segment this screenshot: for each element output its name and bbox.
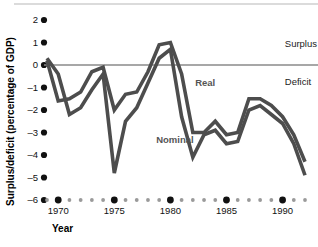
- x-major-tick-dot: [167, 197, 174, 204]
- x-minor-tick-dot: [45, 198, 49, 202]
- x-major-tick-dot: [223, 197, 230, 204]
- y-tick-label: –3: [27, 127, 38, 138]
- x-minor-tick-dot: [124, 198, 128, 202]
- x-minor-tick-dot: [135, 198, 139, 202]
- annotation-real: Real: [195, 77, 215, 88]
- x-minor-tick-dot: [236, 198, 240, 202]
- x-tick-label: 1985: [216, 205, 237, 216]
- x-minor-tick-dot: [146, 198, 150, 202]
- y-tick-dot: [41, 39, 47, 45]
- y-tick-dot: [41, 107, 47, 113]
- y-tick-label: –2: [27, 104, 38, 115]
- y-tick-dot: [41, 84, 47, 90]
- x-major-tick-dot: [111, 197, 118, 204]
- x-minor-tick-dot: [180, 198, 184, 202]
- x-axis-title: Year: [52, 223, 73, 234]
- y-tick-label: –4: [27, 149, 38, 160]
- x-minor-tick-dot: [202, 198, 206, 202]
- annotation-deficit: Deficit: [285, 76, 312, 87]
- y-axis-title: Surplus/deficit (percentage of GDP): [5, 37, 16, 206]
- x-tick-label: 1990: [272, 205, 293, 216]
- x-minor-tick-dot: [101, 198, 105, 202]
- x-tick-label: 1975: [104, 205, 125, 216]
- x-minor-tick-dot: [269, 198, 273, 202]
- y-tick-dot: [41, 17, 47, 23]
- annotation-nominal: Nominal: [156, 134, 193, 145]
- y-tick-dot: [41, 174, 47, 180]
- x-minor-tick-dot: [213, 198, 217, 202]
- x-minor-tick-dot: [79, 198, 83, 202]
- y-tick-label: 1: [33, 37, 38, 48]
- x-minor-tick-dot: [303, 198, 307, 202]
- x-minor-tick-dot: [292, 198, 296, 202]
- y-tick-label: 2: [33, 14, 38, 25]
- x-tick-label: 1980: [160, 205, 181, 216]
- x-tick-label: 1970: [48, 205, 69, 216]
- x-minor-tick-dot: [191, 198, 195, 202]
- y-tick-label: –6: [27, 194, 38, 205]
- annotation-surplus: Surplus: [285, 38, 317, 49]
- x-minor-tick-dot: [258, 198, 262, 202]
- y-tick-label: –1: [27, 82, 38, 93]
- x-minor-tick-dot: [247, 198, 251, 202]
- x-major-tick-dot: [55, 197, 62, 204]
- x-major-tick-dot: [279, 197, 286, 204]
- x-minor-tick-dot: [157, 198, 161, 202]
- y-tick-label: 0: [33, 59, 38, 70]
- chart-figure: Surplus/deficit (percentage of GDP) 210–…: [0, 0, 318, 247]
- y-tick-label: –5: [27, 172, 38, 183]
- x-minor-tick-dot: [90, 198, 94, 202]
- x-minor-tick-dot: [68, 198, 72, 202]
- y-tick-dot: [41, 152, 47, 158]
- y-tick-dot: [41, 129, 47, 135]
